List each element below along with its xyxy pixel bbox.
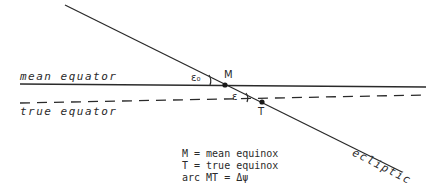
mean-equator-label: mean equator: [20, 70, 117, 83]
legend-item-mean-equinox: M = mean equinox: [182, 148, 278, 160]
true-equator-line: [20, 95, 426, 103]
legend: M = mean equinox T = true equinox arc MT…: [182, 148, 278, 184]
mean-equinox-label: M: [224, 69, 233, 80]
ecliptic-line: [65, 5, 402, 172]
mean-equinox-point: [222, 82, 227, 87]
true-equator-label: true equator: [20, 105, 117, 118]
true-obliquity-label: ε: [232, 91, 237, 102]
true-obliquity-arc: [246, 93, 248, 102]
mean-obliquity-label: ε₀: [191, 72, 200, 83]
true-equinox-label: T: [258, 106, 264, 117]
legend-item-arc: arc MT = Δψ: [182, 172, 278, 184]
legend-item-true-equinox: T = true equinox: [182, 160, 278, 172]
true-equinox-point: [259, 99, 264, 104]
